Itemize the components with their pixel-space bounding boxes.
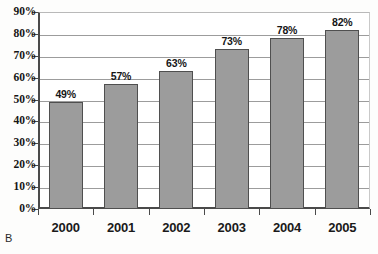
bar-value-label: 63% (166, 57, 186, 69)
y-tick-label: 50% (0, 94, 36, 106)
bar: 49% (49, 102, 83, 209)
bar-slot: 82% (315, 12, 370, 209)
bar-value-label: 73% (221, 35, 241, 47)
bar-value-label: 57% (111, 70, 131, 82)
bar: 57% (104, 84, 138, 209)
y-tick-label: 30% (0, 137, 36, 149)
y-tick-label: 40% (0, 115, 36, 127)
bar-value-label: 82% (332, 16, 352, 28)
x-tick-label: 2002 (149, 220, 204, 235)
bar-series: 49%57%63%73%78%82% (38, 12, 370, 209)
y-tick-label: 0% (0, 203, 36, 215)
x-tick-mark (204, 209, 205, 215)
bar-slot: 78% (259, 12, 314, 209)
y-tick-label: 20% (0, 159, 36, 171)
x-tick-label: 2001 (93, 220, 148, 235)
x-axis-labels: 200020012002200320042005 (38, 220, 370, 235)
x-tick-mark (259, 209, 260, 215)
y-tick-label: 90% (0, 6, 36, 18)
x-tick-mark (93, 209, 94, 215)
bar: 63% (159, 71, 193, 209)
panel-caption: B (5, 232, 12, 244)
bar-chart-figure: 0%10%20%30%40%50%60%70%80%90% 49%57%63%7… (0, 0, 378, 254)
x-tick-mark (149, 209, 150, 215)
bar: 78% (270, 38, 304, 209)
bar-slot: 57% (93, 12, 148, 209)
bar-slot: 63% (149, 12, 204, 209)
y-tick-label: 80% (0, 28, 36, 40)
x-tick-mark (38, 209, 39, 215)
x-tick-mark (315, 209, 316, 215)
x-tick-label: 2005 (315, 220, 370, 235)
bar-value-label: 78% (277, 24, 297, 36)
x-tick-mark (370, 209, 371, 215)
bar: 82% (325, 30, 359, 209)
bar-slot: 49% (38, 12, 93, 209)
y-tick-label: 10% (0, 181, 36, 193)
bar-value-label: 49% (55, 88, 75, 100)
x-tick-label: 2004 (259, 220, 314, 235)
x-tick-label: 2003 (204, 220, 259, 235)
bar-slot: 73% (204, 12, 259, 209)
bar: 73% (215, 49, 249, 209)
x-tick-label: 2000 (38, 220, 93, 235)
y-tick-label: 70% (0, 50, 36, 62)
y-tick-label: 60% (0, 72, 36, 84)
